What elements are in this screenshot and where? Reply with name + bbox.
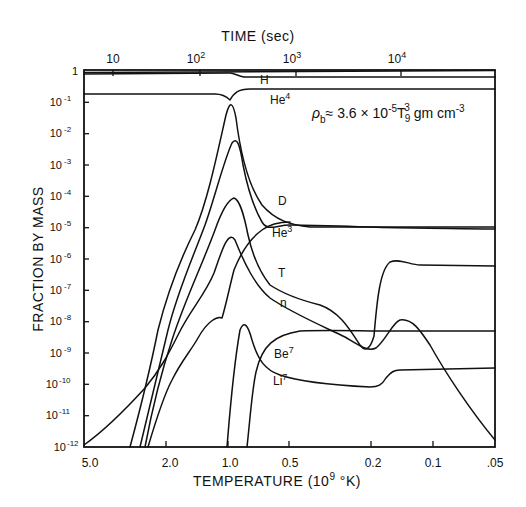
y-tick-exp: -10 <box>59 376 71 385</box>
svg-text:10: 10 <box>50 347 62 359</box>
y-tick-exp: -5 <box>64 219 72 228</box>
y-tick-exp: -6 <box>64 251 72 260</box>
x-tick-label: 1.0 <box>222 456 239 470</box>
curve-n <box>84 237 495 445</box>
label-t: T <box>278 266 286 280</box>
svg-text:10: 10 <box>50 253 62 265</box>
svg-text:-5: -5 <box>64 219 72 228</box>
curve-he3 <box>140 141 495 447</box>
x-tick-label: 2.0 <box>162 456 179 470</box>
y-tick-exp: -1 <box>64 94 72 103</box>
x-tick-label: 5.0 <box>82 456 99 470</box>
label-be7: Be7 <box>274 345 294 361</box>
y-tick-exp: -4 <box>64 188 72 197</box>
top-axis-title: TIME (sec) <box>221 28 294 44</box>
svg-text:-7: -7 <box>64 282 72 291</box>
y-axis-title: FRACTION BY MASS <box>30 186 46 331</box>
y-tick-exp: -11 <box>59 407 71 416</box>
svg-text:-8: -8 <box>64 313 72 322</box>
y-tick-label: 10 <box>50 221 62 233</box>
y-axis-tick-labels: 1 10 -1 10 -2 10 -3 10 -4 10 -5 10 -6 10… <box>46 65 79 453</box>
svg-text:-6: -6 <box>64 251 72 260</box>
y-tick-label: 10 <box>50 190 62 202</box>
chart: TIME (sec) 10 102 103 104 <box>0 0 526 507</box>
x-tick-label: 0.5 <box>282 456 299 470</box>
x-tick-label: 0.2 <box>365 456 382 470</box>
svg-text:10: 10 <box>50 284 62 296</box>
svg-text:10: 10 <box>46 409 58 421</box>
top-axis-tick-labels: 10 102 103 104 <box>106 50 406 66</box>
plot-frame <box>84 70 495 447</box>
svg-text:-12: -12 <box>67 439 79 448</box>
y-tick-exp: -7 <box>64 282 72 291</box>
top-tick-label: 10 <box>283 52 297 66</box>
svg-text:10: 10 <box>46 378 58 390</box>
svg-text:-4: -4 <box>64 188 72 197</box>
x-axis-title: TEMPERATURE (109 °K) <box>193 471 361 489</box>
top-tick-label: 10 <box>187 52 201 66</box>
y-tick-label: 10 <box>50 159 62 171</box>
top-tick-label: 10 <box>388 52 402 66</box>
svg-text:-9: -9 <box>64 345 72 354</box>
svg-text:10: 10 <box>50 127 62 139</box>
y-tick-exp: -8 <box>64 313 72 322</box>
x-axis-tick-labels: 5.0 2.0 1.0 0.5 0.2 0.1 .05 <box>82 456 504 470</box>
y-tick-label: 10 <box>46 409 58 421</box>
y-tick-label: 10 <box>50 315 62 327</box>
y-tick-exp: -2 <box>64 125 72 134</box>
x-axis-title-tail: °K) <box>335 473 361 489</box>
svg-text:-11: -11 <box>59 407 71 416</box>
svg-text:-1: -1 <box>64 94 72 103</box>
curve-h <box>84 73 495 77</box>
label-n: n <box>280 296 287 310</box>
y-tick-exp: -12 <box>67 439 79 448</box>
x-axis-title-main: TEMPERATURE (10 <box>193 473 329 489</box>
top-tick-exp: 4 <box>401 50 406 60</box>
svg-text:10: 10 <box>50 96 62 108</box>
svg-text:10: 10 <box>106 52 120 66</box>
label-he4: He4 <box>270 91 290 107</box>
density-annotation: ρb≈ 3.6 × 10-5T93 gm cm-3 <box>311 102 465 125</box>
curve-t <box>145 198 495 447</box>
top-tick-exp: 2 <box>200 50 205 60</box>
y-tick-label: 10 <box>54 441 66 453</box>
y-tick-exp: -9 <box>64 345 72 354</box>
y-tick-exp: -3 <box>64 157 72 166</box>
svg-text:10: 10 <box>50 221 62 233</box>
top-tick-exp: 3 <box>296 50 301 60</box>
label-d: D <box>278 194 287 208</box>
y-tick-label: 10 <box>50 253 62 265</box>
svg-text:10: 10 <box>50 315 62 327</box>
svg-text:10: 10 <box>54 441 66 453</box>
y-tick-label: 10 <box>46 378 58 390</box>
curves <box>84 71 495 448</box>
y-tick-label: 10 <box>50 127 62 139</box>
svg-text:-2: -2 <box>64 125 72 134</box>
label-he3: He3 <box>272 224 292 240</box>
y-tick-label: 1 <box>72 65 78 77</box>
svg-text:10: 10 <box>50 190 62 202</box>
svg-text:-10: -10 <box>59 376 71 385</box>
svg-text:104: 104 <box>388 50 406 66</box>
svg-text:-3: -3 <box>64 157 72 166</box>
svg-text:10: 10 <box>50 159 62 171</box>
x-tick-label: .05 <box>487 456 504 470</box>
svg-text:102: 102 <box>187 50 205 66</box>
y-tick-label: 10 <box>50 96 62 108</box>
svg-text:1: 1 <box>72 65 78 77</box>
top-tick-label: 10 <box>106 52 120 66</box>
series-labels: H He4 D He3 T n Be7 Li7 <box>260 73 294 388</box>
y-tick-label: 10 <box>50 284 62 296</box>
curve-secondary <box>148 222 290 447</box>
label-li7: Li7 <box>273 372 287 388</box>
svg-text:103: 103 <box>283 50 301 66</box>
x-tick-label: 0.1 <box>425 456 442 470</box>
y-tick-label: 10 <box>50 347 62 359</box>
label-h: H <box>260 73 269 87</box>
